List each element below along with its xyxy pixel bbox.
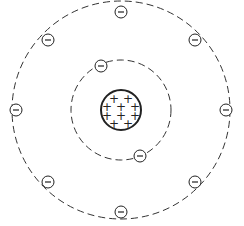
electron-icon bbox=[115, 206, 127, 218]
electron-icon bbox=[134, 150, 146, 162]
electron-icon bbox=[115, 6, 127, 18]
electron-icon bbox=[42, 34, 54, 46]
electron-icon bbox=[220, 104, 232, 116]
electron-icon bbox=[189, 176, 201, 188]
electron-icon bbox=[10, 104, 22, 116]
electron-icon bbox=[42, 176, 54, 188]
electron-icon bbox=[95, 60, 107, 72]
nucleus: ++++++++++ bbox=[101, 90, 141, 131]
proton-plus-icon: + bbox=[109, 117, 119, 131]
atom-diagram: ++++++++++ bbox=[0, 0, 244, 226]
proton-plus-icon: + bbox=[123, 117, 133, 131]
electron-icon bbox=[189, 34, 201, 46]
